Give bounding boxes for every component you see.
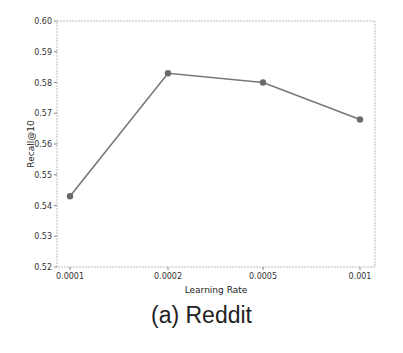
x-axis-label: Learning Rate [185, 285, 248, 295]
x-tick-label: 0.0001 [56, 272, 84, 281]
y-tick-label: 0.55 [34, 171, 52, 180]
line-chart: 0.520.530.540.550.560.570.580.590.60 0.0… [0, 0, 403, 300]
data-points [67, 70, 363, 199]
data-point [357, 116, 363, 122]
y-tick-label: 0.56 [34, 140, 52, 149]
y-tick-label: 0.57 [34, 109, 52, 118]
y-tick-label: 0.53 [34, 232, 52, 241]
y-axis-ticks: 0.520.530.540.550.560.570.580.590.60 [34, 17, 57, 272]
x-tick-label: 0.0005 [249, 272, 277, 281]
data-point [260, 79, 266, 85]
y-tick-label: 0.58 [34, 79, 52, 88]
data-point [165, 70, 171, 76]
data-point [67, 193, 73, 199]
y-tick-label: 0.54 [34, 202, 52, 211]
y-tick-label: 0.52 [34, 263, 52, 272]
figure-caption: (a) Reddit [0, 302, 403, 329]
x-tick-label: 0.001 [349, 272, 372, 281]
plot-area [57, 21, 375, 267]
x-axis-ticks: 0.00010.00020.00050.001 [56, 267, 371, 281]
y-tick-label: 0.59 [34, 48, 52, 57]
y-tick-label: 0.60 [34, 17, 52, 26]
y-axis-label: Recall@10 [26, 120, 36, 168]
data-line [70, 73, 360, 196]
x-tick-label: 0.0002 [154, 272, 182, 281]
